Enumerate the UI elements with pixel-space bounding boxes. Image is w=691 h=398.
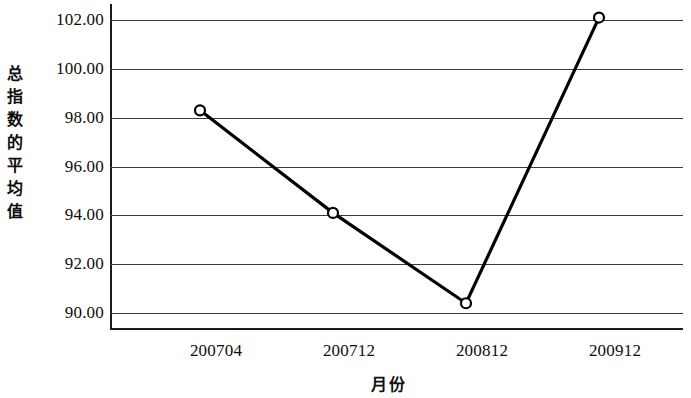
y-axis-tick-label: 92.00 bbox=[32, 255, 104, 273]
data-point-marker bbox=[328, 208, 338, 218]
line-chart: 总 指 数 的 平 均 值 102.00100.0098.0096.0094.0… bbox=[0, 0, 691, 398]
x-axis-tick-labels: 200704200712200812200912 bbox=[110, 341, 683, 365]
y-axis-tick-label: 94.00 bbox=[32, 206, 104, 224]
y-axis-tick-label: 100.00 bbox=[32, 60, 104, 78]
data-point-marker bbox=[461, 298, 471, 308]
y-axis-tick-label: 96.00 bbox=[32, 158, 104, 176]
y-axis-tick-label: 90.00 bbox=[32, 304, 104, 322]
x-axis-tick-label: 200712 bbox=[289, 341, 409, 361]
y-axis-tick-label: 98.00 bbox=[32, 109, 104, 127]
x-axis-tick-label: 200704 bbox=[156, 341, 276, 361]
series-line bbox=[110, 0, 683, 330]
plot-area bbox=[110, 20, 683, 330]
x-axis-tick-label: 200812 bbox=[422, 341, 542, 361]
data-point-marker bbox=[195, 105, 205, 115]
y-axis-title: 总 指 数 的 平 均 值 bbox=[2, 62, 28, 223]
y-axis-tick-labels: 102.00100.0098.0096.0094.0092.0090.00 bbox=[30, 0, 104, 398]
y-axis-tick-label: 102.00 bbox=[32, 11, 104, 29]
series-polyline bbox=[200, 18, 599, 304]
x-axis-tick-label: 200912 bbox=[555, 341, 675, 361]
data-point-marker bbox=[594, 13, 604, 23]
x-axis-title: 月份 bbox=[0, 371, 691, 395]
